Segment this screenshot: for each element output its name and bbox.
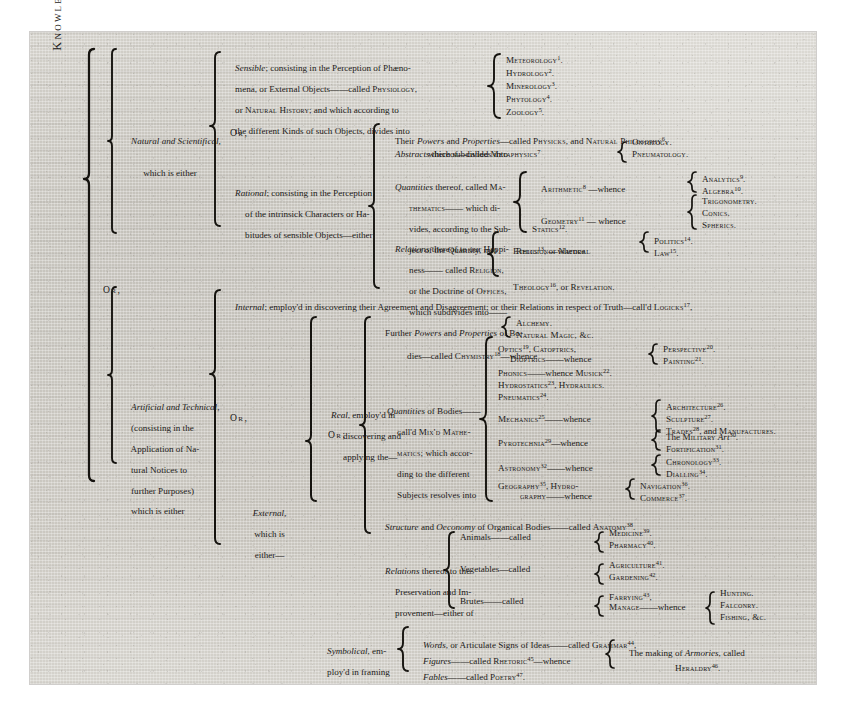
pyrotechnia-item-1: Fortification31. [666, 442, 724, 454]
sensible-item-1: Hydrology2. [506, 66, 554, 78]
mechanics-item-1: Sculpture27. [666, 412, 713, 424]
heraldry-line2: Heraldry46. [666, 651, 720, 684]
mixedmath-head-geography-line2: graphy——whence [520, 491, 592, 501]
brutes-item-1: Manage——whence [609, 602, 686, 612]
animals-item-0: Medicine39. [609, 526, 652, 538]
artificial-branch-label: Artificial and Technical, (consisting in… [122, 392, 218, 527]
connector-or-artificial: Or, [230, 413, 248, 423]
arithmetic-item-1: Algebra10. [702, 184, 743, 196]
manage-item-2: Fishing, &c. [720, 612, 766, 622]
arithmetic-item-0: Analytics9. [702, 172, 746, 184]
pyrotechnia-item-0: The Military Art30. [666, 430, 738, 442]
natural-branch-label: Natural and Scientifical, which is eithe… [122, 126, 218, 199]
abstracts-item-0: Ontology. [632, 137, 672, 147]
relations-row-animals: Animals——called [460, 532, 531, 542]
optics-out-1: Painting21. [663, 354, 704, 366]
connector-or-root: Or, [103, 285, 121, 295]
chymistry-item-1: Natural Magic, &c. [516, 330, 594, 340]
mixedmath-head-mechanics: Mechanics25——whence [498, 412, 591, 424]
mixedmath-head-astronomy: Astronomy32——whence [498, 461, 593, 473]
mixed-math-description: Quantities of Bodies—— call'd Mix'd Math… [378, 396, 488, 510]
mixedmath-plain-3: Hydrostatics23, Hydraulics. [498, 378, 604, 390]
relations-row-vegetables: Vegetables—called [460, 564, 530, 574]
mixedmath-head-pyrotechnia: Pyrotechnia29—whence [498, 436, 588, 448]
ethics-item-1: Law15. [654, 246, 679, 258]
mixedmath-plain-4: Pneumatics24. [498, 390, 549, 402]
mixedmath-plain-2: Phonics——whence Musick22. [498, 366, 612, 378]
ethics-item-0: Politics14. [654, 234, 693, 246]
root-label: Knowledge, is either [52, 0, 62, 124]
geography-item-1: Commerce37. [640, 491, 687, 503]
mixedmath-plain-0: Optics19, Catoptrics, [498, 342, 576, 354]
chymistry-item-0: Alchemy. [516, 318, 552, 328]
symbolical-label: Symbolical, em- ploy'd in framing [318, 636, 404, 688]
brutes-item-0: Farrying43, [609, 590, 652, 602]
manage-item-0: Hunting. [720, 588, 754, 598]
geography-item-0: Navigation36. [640, 479, 690, 491]
sensible-item-3: Phytology4. [506, 92, 552, 104]
mixedmath-head-geography: Geography35, Hydro- [498, 479, 579, 491]
optics-out-0: Perspective20. [663, 342, 715, 354]
geometry-item-0: Trigonometry. [702, 196, 757, 206]
vegetables-item-0: Agriculture41. [609, 558, 665, 570]
sensible-item-4: Zoology5. [506, 105, 544, 117]
relations-row-brutes: Brutes——called [460, 596, 524, 606]
astronomy-item-1: Dialling34. [666, 467, 708, 479]
astronomy-item-0: Chronology33. [666, 455, 722, 467]
math-statics: Statics12. [532, 222, 568, 234]
scanned-page: Knowledge, is either Or, Or, Or, Or; Nat… [30, 32, 816, 684]
manage-item-1: Falconry. [720, 600, 758, 610]
rational-abstracts-line2: which subdivides into [428, 149, 508, 159]
sensible-item-2: Minerology3. [506, 79, 557, 91]
symbolical-row-fables: Fables——called Poetry47. [414, 660, 525, 693]
relations-ethics-line2: Religion—whence [516, 246, 585, 256]
geometry-item-2: Spherics. [702, 220, 736, 230]
vegetables-item-1: Gardening42. [609, 570, 658, 582]
geometry-item-1: Conics. [702, 208, 730, 218]
abstracts-item-1: Pneumatology. [632, 149, 688, 159]
animals-item-1: Pharmacy40. [609, 538, 656, 550]
mechanics-item-0: Architecture26. [666, 400, 726, 412]
mixedmath-plain-1: Dioptrics——whence [510, 354, 591, 364]
math-arithmetic: Arithmetic8 —whence [532, 172, 625, 205]
rational-description: Rational; consisting in the Perception o… [226, 178, 376, 251]
sensible-item-0: Meteorology1. [506, 53, 563, 65]
external-label: External, which is either— [226, 498, 304, 571]
